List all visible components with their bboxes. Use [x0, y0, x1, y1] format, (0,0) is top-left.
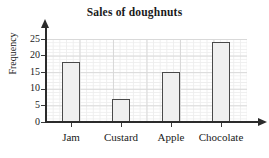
x-tick-label-chocolate: Chocolate [199, 131, 244, 143]
bar-custard [112, 99, 130, 122]
x-tick-label-custard: Custard [104, 131, 138, 143]
bar-chocolate [212, 42, 230, 122]
y-axis-tick-labels: 25 20 15 10 5 0 [18, 0, 40, 158]
y-tick-label: 10 [20, 83, 40, 93]
y-tick-label: 20 [20, 50, 40, 60]
y-axis-line [45, 26, 47, 122]
chart-title: Sales of doughnuts [0, 6, 269, 18]
plot-area [46, 39, 247, 122]
x-tick-mark [71, 123, 72, 127]
x-axis-arrow-icon [258, 118, 267, 126]
y-tick-label: 5 [20, 100, 40, 110]
x-tick-mark [171, 123, 172, 127]
bar-jam [62, 62, 80, 122]
x-tick-mark [221, 123, 222, 127]
x-axis-line [45, 121, 259, 123]
y-tick-label: 15 [20, 67, 40, 77]
y-axis-label: Frequency [7, 18, 18, 90]
x-tick-label-jam: Jam [62, 131, 80, 143]
y-tick-label: 25 [20, 34, 40, 44]
bar-chart: Sales of doughnuts Frequency 25 20 15 10… [0, 0, 269, 158]
y-tick-label: 0 [20, 117, 40, 127]
x-tick-mark [121, 123, 122, 127]
bar-apple [162, 72, 180, 122]
x-tick-label-apple: Apple [158, 131, 185, 143]
y-axis-arrow-icon [41, 19, 49, 28]
